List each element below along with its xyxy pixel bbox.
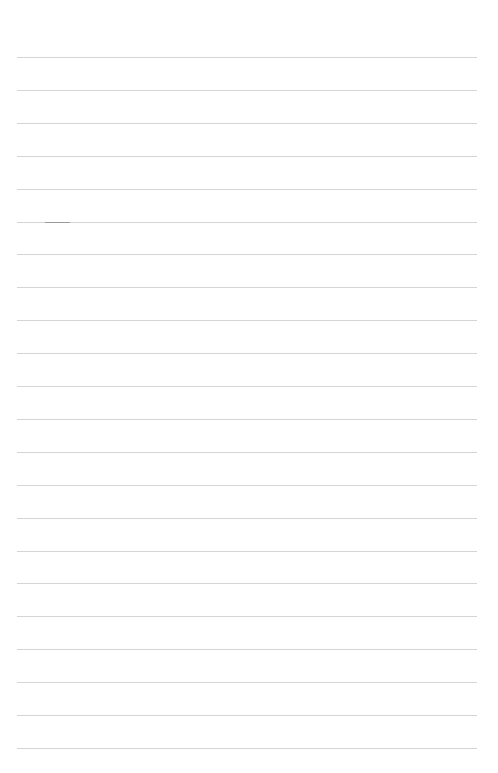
ruled-line: [17, 518, 477, 519]
ruled-line: [17, 583, 477, 584]
ruled-line: [17, 715, 477, 716]
ruled-line: [17, 189, 477, 190]
ruled-line: [17, 123, 477, 124]
ruled-line: [17, 320, 477, 321]
ruled-line: [17, 57, 477, 58]
pencil-mark: [45, 222, 70, 223]
ruled-line: [17, 452, 477, 453]
ruled-line: [17, 254, 477, 255]
ruled-line: [17, 748, 477, 749]
ruled-line: [17, 156, 477, 157]
ruled-line: [17, 353, 477, 354]
ruled-line: [17, 485, 477, 486]
ruled-line: [17, 419, 477, 420]
ruled-line: [17, 90, 477, 91]
ruled-line: [17, 616, 477, 617]
ruled-line: [17, 287, 477, 288]
ruled-line: [17, 682, 477, 683]
ruled-line: [17, 551, 477, 552]
lined-page: [0, 0, 498, 773]
ruled-line: [17, 386, 477, 387]
ruled-line: [17, 222, 477, 223]
ruled-line: [17, 649, 477, 650]
